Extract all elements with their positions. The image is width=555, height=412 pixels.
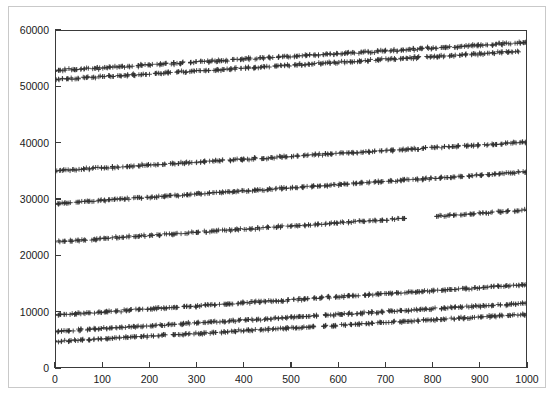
x-tick-label: 400 [235, 374, 253, 385]
y-tick-mark [55, 29, 61, 30]
y-tick-label: 20000 [0, 250, 49, 261]
x-tick-mark [54, 362, 55, 368]
x-tick-label: 500 [282, 374, 300, 385]
scatter-plot-figure: 0100002000030000400005000060000010020030… [0, 0, 555, 412]
y-tick-mark [55, 311, 61, 312]
y-tick-mark [55, 255, 61, 256]
x-tick-mark [432, 362, 433, 368]
x-tick-mark [338, 362, 339, 368]
y-tick-label: 30000 [0, 194, 49, 205]
x-tick-label: 1000 [515, 374, 538, 385]
y-tick-mark [55, 198, 61, 199]
x-tick-label: 200 [141, 374, 159, 385]
x-tick-mark [526, 362, 527, 368]
y-tick-label: 0 [0, 363, 49, 374]
x-tick-mark [385, 362, 386, 368]
x-tick-mark [196, 362, 197, 368]
x-tick-label: 900 [471, 374, 489, 385]
x-tick-mark [149, 362, 150, 368]
y-tick-label: 50000 [0, 81, 49, 92]
y-tick-mark [55, 86, 61, 87]
y-tick-label: 40000 [0, 137, 49, 148]
x-tick-label: 300 [188, 374, 206, 385]
x-tick-label: 700 [377, 374, 395, 385]
scatter-series-band-5 [55, 207, 527, 244]
x-tick-label: 800 [424, 374, 442, 385]
y-tick-label: 10000 [0, 306, 49, 317]
x-tick-label: 0 [52, 374, 58, 385]
y-tick-mark [55, 367, 61, 368]
x-tick-label: 100 [93, 374, 111, 385]
scatter-series-band-3 [55, 139, 527, 174]
x-tick-mark [102, 362, 103, 368]
scatter-series-band-7 [55, 300, 527, 334]
scatter-series-band-4 [55, 169, 527, 206]
x-tick-mark [243, 362, 244, 368]
x-tick-mark [479, 362, 480, 368]
y-tick-label: 60000 [0, 25, 49, 36]
y-tick-mark [55, 142, 61, 143]
x-tick-mark [290, 362, 291, 368]
x-tick-label: 600 [329, 374, 347, 385]
scatter-series-band-6 [55, 282, 527, 318]
plot-area [55, 30, 527, 368]
scatter-markers-layer [55, 30, 527, 368]
